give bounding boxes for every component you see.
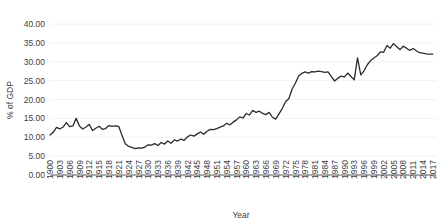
x-axis-tick-label: 1921 — [114, 160, 124, 179]
x-axis-tick-label: 1966 — [261, 160, 271, 179]
x-axis-tick-label: 2011 — [408, 160, 418, 179]
x-axis-tick-label: 1900 — [45, 160, 55, 179]
x-axis-tick-label: 1960 — [241, 160, 251, 179]
x-axis-tick-label: 1924 — [124, 160, 134, 179]
x-axis-tick-label: 1927 — [134, 160, 144, 179]
x-axis-tick-label: 1999 — [369, 160, 379, 179]
x-axis-title: Year — [232, 210, 249, 220]
x-axis-tick-label: 1930 — [143, 160, 153, 179]
x-axis-tick-label: 1969 — [271, 160, 281, 179]
data-series-line — [50, 44, 433, 149]
y-axis-tick-label: 5.00 — [28, 151, 45, 161]
x-axis-tick-label: 2017 — [428, 160, 438, 179]
y-axis-tick-label: 15.00 — [24, 113, 46, 123]
y-axis-title: % of GDP — [5, 81, 15, 119]
x-axis-tick-label: 1987 — [330, 160, 340, 179]
x-axis-tick-label: 1918 — [104, 160, 114, 179]
x-axis-tick-label: 2002 — [379, 160, 389, 179]
y-axis-tick-label: 25.00 — [24, 76, 46, 86]
x-axis-tick-label: 1963 — [251, 160, 261, 179]
x-axis-tick-label: 1951 — [212, 160, 222, 179]
line-chart: 0.005.0010.0015.0020.0025.0030.0035.0040… — [0, 0, 443, 223]
x-axis-tick-label: 1912 — [84, 160, 94, 179]
y-axis-tick-label: 20.00 — [24, 95, 46, 105]
x-axis-tick-label: 1915 — [94, 160, 104, 179]
x-axis-tick-label: 1906 — [65, 160, 75, 179]
x-axis-tick-label: 1903 — [55, 160, 65, 179]
x-axis-tick-label: 1981 — [310, 160, 320, 179]
x-axis-tick-label: 2005 — [389, 160, 399, 179]
x-axis-tick-label: 1939 — [173, 160, 183, 179]
chart-container: 0.005.0010.0015.0020.0025.0030.0035.0040… — [0, 0, 443, 223]
x-axis-tick-label: 1933 — [153, 160, 163, 179]
x-axis-tick-label: 1978 — [300, 160, 310, 179]
x-axis-tick-label: 1945 — [192, 160, 202, 179]
x-axis-tick-label: 1972 — [281, 160, 291, 179]
x-axis-tick-label: 1954 — [222, 160, 232, 179]
x-axis-tick-label: 1948 — [202, 160, 212, 179]
x-axis-tick-label: 1957 — [232, 160, 242, 179]
y-axis-tick-label: 35.00 — [24, 38, 46, 48]
x-axis-tick-label: 1936 — [163, 160, 173, 179]
y-axis-tick-labels: 0.005.0010.0015.0020.0025.0030.0035.0040… — [24, 19, 46, 180]
x-axis-tick-label: 1975 — [291, 160, 301, 179]
x-axis-tick-label: 2014 — [418, 160, 428, 179]
y-axis-tick-label: 30.00 — [24, 57, 46, 67]
y-axis-tick-label: 0.00 — [28, 170, 45, 180]
x-axis-tick-label: 1984 — [320, 160, 330, 179]
x-axis-tick-label: 1909 — [75, 160, 85, 179]
y-axis-tick-label: 40.00 — [24, 19, 46, 29]
x-axis-tick-label: 1990 — [340, 160, 350, 179]
x-axis-tick-labels: 1900190319061909191219151918192119241927… — [45, 160, 438, 179]
x-axis-tick-label: 1996 — [359, 160, 369, 179]
y-axis-tick-label: 10.00 — [24, 132, 46, 142]
x-axis-tick-label: 1942 — [183, 160, 193, 179]
gridlines — [50, 24, 436, 156]
x-axis-tick-label: 1993 — [349, 160, 359, 179]
x-axis-tick-label: 2008 — [398, 160, 408, 179]
